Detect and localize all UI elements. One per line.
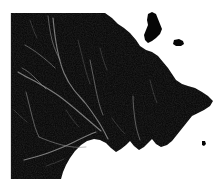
- map-raster-svg[interactable]: Northern peninsulaOffshore islandSmall o…: [0, 0, 221, 191]
- map-figure: Near-black land surface raster with fain…: [0, 0, 221, 191]
- map-canvas[interactable]: Northern peninsulaOffshore islandSmall o…: [0, 0, 221, 191]
